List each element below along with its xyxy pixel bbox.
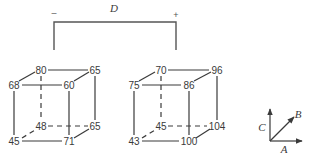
axis-legend: A B C (258, 108, 302, 155)
vertex-label: 70 (155, 65, 167, 76)
axis-label-c: C (258, 121, 266, 133)
vertex-label: 45 (8, 136, 20, 147)
axis-label-b: B (295, 108, 302, 120)
vertex-label: 100 (181, 136, 198, 147)
vertex-label: 43 (128, 136, 140, 147)
minus-sign: – (51, 8, 56, 18)
cube-right: 75 86 43 100 70 96 45 104 (128, 65, 225, 147)
vertex-label: 65 (89, 121, 101, 132)
vertex-label: 60 (63, 80, 75, 91)
vertex-label: 86 (183, 80, 195, 91)
factorial-design-diagram: D – + 68 60 45 71 80 65 48 65 (0, 0, 313, 159)
vertex-label: 48 (35, 121, 47, 132)
axis-label-a: A (280, 143, 288, 155)
vertex-label: 71 (63, 136, 75, 147)
vertex-label: 45 (155, 121, 167, 132)
plus-sign: + (173, 10, 178, 20)
vertex-label: 80 (35, 65, 47, 76)
vertex-label: 68 (8, 80, 20, 91)
vertex-label: 75 (128, 80, 140, 91)
axis-b-arrow-icon (270, 117, 294, 141)
factor-d-bracket: D – + (51, 2, 178, 50)
vertex-label: 65 (89, 65, 101, 76)
vertex-label: 104 (209, 121, 226, 132)
bracket-label-d: D (109, 2, 118, 14)
vertex-label: 96 (211, 65, 223, 76)
cube-left: 68 60 45 71 80 65 48 65 (8, 65, 101, 147)
